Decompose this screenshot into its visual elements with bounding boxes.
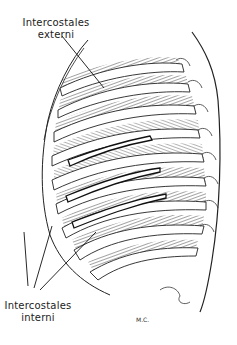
label-intercostales-interni: Intercostales interni (2, 300, 74, 324)
label-line-2: interni (2, 312, 74, 324)
rib-cage-drawing (0, 0, 237, 345)
label-intercostales-externi: Intercostales externi (16, 17, 96, 41)
artist-signature: M.C. (136, 316, 149, 323)
label-line-1: Intercostales (2, 300, 74, 312)
rib-cage-illustration: Intercostales externi Intercostales inte… (0, 0, 237, 345)
label-line-2: externi (16, 29, 96, 41)
label-line-1: Intercostales (16, 17, 96, 29)
